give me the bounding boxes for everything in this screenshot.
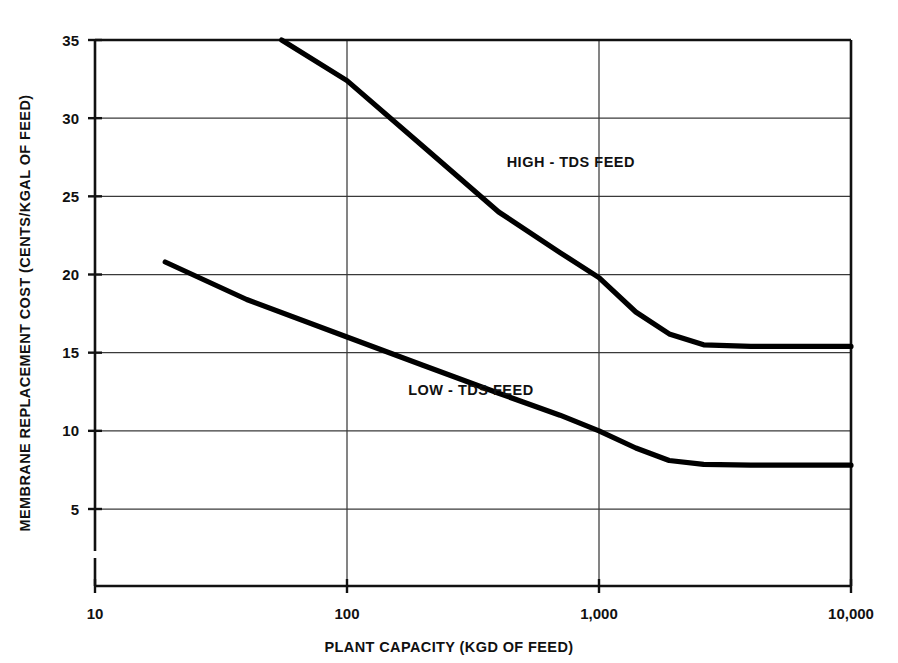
- y-tick-label-35: 35: [62, 32, 79, 49]
- x-axis-title: PLANT CAPACITY (KGD OF FEED): [324, 639, 573, 655]
- y-tick-label-10: 10: [62, 422, 79, 439]
- x-tick-label-1,000: 1,000: [580, 605, 618, 622]
- series-annotation-high-tds-feed: HIGH - TDS FEED: [507, 154, 635, 170]
- series-annotation-low-tds-feed: LOW - TDS FEED: [408, 382, 533, 398]
- y-tick-label-30: 30: [62, 110, 79, 127]
- chart-background: [0, 0, 898, 663]
- x-tick-label-10: 10: [87, 605, 104, 622]
- chart-container: 5101520253035 101001,00010,000 HIGH - TD…: [0, 0, 898, 663]
- x-tick-label-100: 100: [334, 605, 359, 622]
- y-tick-label-5: 5: [71, 501, 79, 518]
- x-tick-label-10,000: 10,000: [828, 605, 874, 622]
- replacement-cost-vs-capacity-chart: 5101520253035 101001,00010,000 HIGH - TD…: [0, 0, 898, 663]
- y-axis-title: MEMBRANE REPLACEMENT COST (CENTS/KGAL OF…: [17, 94, 33, 531]
- y-tick-label-20: 20: [62, 266, 79, 283]
- y-tick-label-25: 25: [62, 188, 79, 205]
- y-tick-label-15: 15: [62, 344, 79, 361]
